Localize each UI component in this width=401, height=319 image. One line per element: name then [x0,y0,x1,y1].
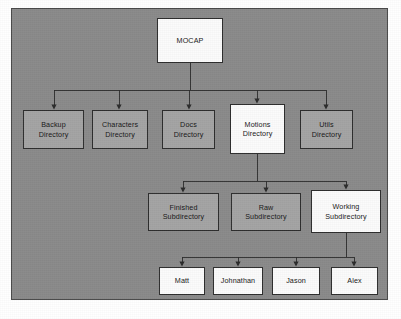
node-working-label-line1: Working [333,202,360,211]
node-motions-directory[interactable]: Motions Directory [230,104,285,154]
node-characters-label-line1: Characters [102,120,138,129]
node-jason[interactable]: Jason [272,267,320,295]
node-docs-label-line2: Directory [174,130,204,139]
node-characters-label-line2: Directory [105,130,135,139]
node-matt[interactable]: Matt [159,267,205,295]
node-mocap-label-line1: MOCAP [177,36,204,45]
node-utils-label-line1: Utils [319,120,333,129]
node-backup-directory[interactable]: Backup Directory [23,110,84,149]
node-motions-label-line1: Motions [245,120,271,129]
node-johnathan[interactable]: Johnathan [213,267,263,295]
node-docs-label-line1: Docs [180,120,197,129]
node-motions-label-line2: Directory [243,129,273,138]
node-docs-directory[interactable]: Docs Directory [162,110,215,149]
node-backup-label-line1: Backup [41,120,66,129]
diagram-canvas: MOCAP Backup Directory Characters Direct… [0,0,401,319]
node-raw-subdirectory[interactable]: Raw Subdirectory [231,193,301,231]
node-utils-label-line2: Directory [312,130,342,139]
node-johnathan-label: Johnathan [221,276,255,285]
node-backup-label-line2: Directory [39,130,69,139]
node-alex[interactable]: Alex [331,267,378,295]
node-finished-label-line1: Finished [170,203,198,212]
node-utils-directory[interactable]: Utils Directory [300,110,353,149]
node-jason-label: Jason [286,276,306,285]
node-mocap[interactable]: MOCAP [157,18,223,63]
node-finished-subdirectory[interactable]: Finished Subdirectory [148,193,219,231]
node-raw-label-line2: Subdirectory [245,212,287,221]
node-raw-label-line1: Raw [259,203,274,212]
node-matt-label: Matt [175,276,189,285]
node-working-label-line2: Subdirectory [325,212,367,221]
node-working-subdirectory[interactable]: Working Subdirectory [311,190,381,233]
node-characters-directory[interactable]: Characters Directory [92,110,148,149]
node-finished-label-line2: Subdirectory [163,212,205,221]
node-alex-label: Alex [347,276,361,285]
